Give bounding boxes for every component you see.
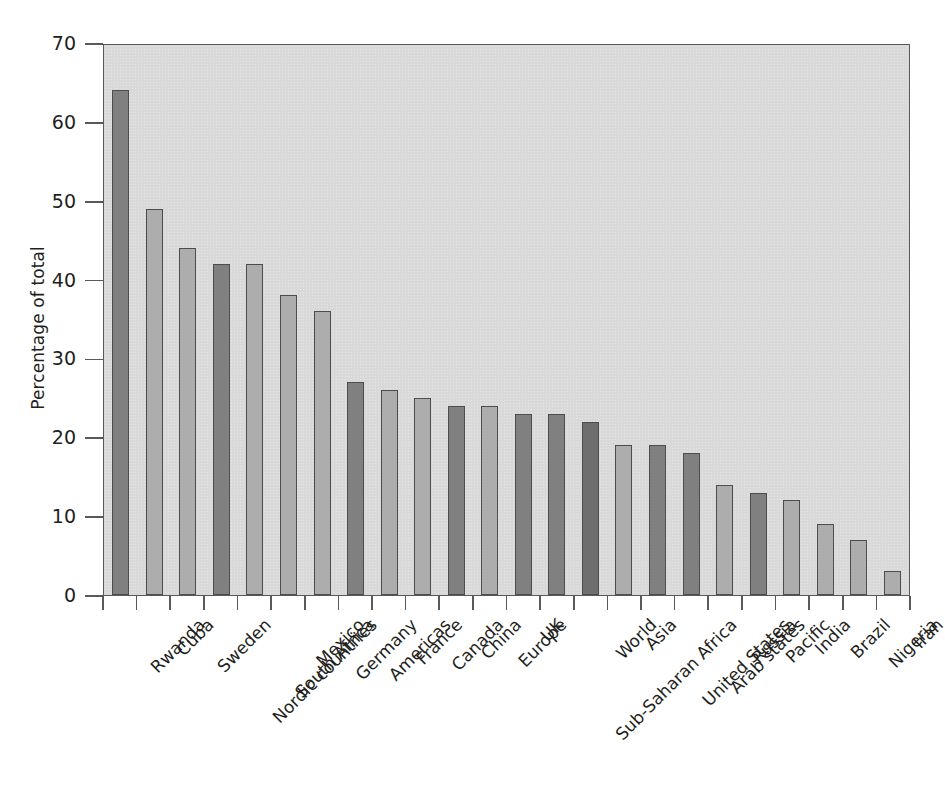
x-axis-tick [573, 596, 575, 610]
y-axis-tick [85, 359, 103, 361]
x-axis-tick [338, 596, 340, 610]
bar[interactable] [146, 209, 163, 595]
bar-chart-figure: Percentage of total 010203040506070 Rwan… [0, 0, 945, 789]
x-axis-tick [169, 596, 171, 610]
bar[interactable] [582, 422, 599, 595]
x-axis-tick [842, 596, 844, 610]
bar[interactable] [246, 264, 263, 595]
y-axis-tick [85, 516, 103, 518]
bar[interactable] [515, 414, 532, 595]
bar[interactable] [414, 398, 431, 595]
y-axis-tick [85, 280, 103, 282]
bar-slot [540, 45, 574, 595]
bar[interactable] [649, 445, 666, 595]
x-axis-tick [607, 596, 609, 610]
y-axis-tick [85, 43, 103, 45]
bar-slot [439, 45, 473, 595]
bar[interactable] [314, 311, 331, 595]
bar[interactable] [548, 414, 565, 595]
bar-slot [339, 45, 373, 595]
bar-slot [138, 45, 172, 595]
x-axis-tick [741, 596, 743, 610]
x-axis-tick [438, 596, 440, 610]
bar-slot [574, 45, 608, 595]
bar-slot [876, 45, 910, 595]
bar-slot [104, 45, 138, 595]
x-axis-tick [136, 596, 138, 610]
bar-slot [641, 45, 675, 595]
bar[interactable] [683, 453, 700, 595]
bar-slot [775, 45, 809, 595]
x-axis-tick-label: Cuba [174, 616, 217, 659]
bar-slot [674, 45, 708, 595]
bar[interactable] [716, 485, 733, 595]
bar-slot [708, 45, 742, 595]
x-axis-tick [506, 596, 508, 610]
bar[interactable] [615, 445, 632, 595]
bar[interactable] [850, 540, 867, 595]
y-axis-tick [85, 595, 103, 597]
bar[interactable] [280, 295, 297, 595]
x-axis-tick [102, 596, 104, 610]
bar-slot [372, 45, 406, 595]
plot-area [103, 44, 910, 596]
bar-slot [272, 45, 306, 595]
bar[interactable] [750, 493, 767, 596]
x-axis-tick [640, 596, 642, 610]
x-axis-tick [203, 596, 205, 610]
bar-slot [473, 45, 507, 595]
bar-series [104, 45, 909, 595]
bar[interactable] [783, 500, 800, 595]
x-axis-tick [405, 596, 407, 610]
x-axis-tick [270, 596, 272, 610]
bar-slot [842, 45, 876, 595]
bar[interactable] [817, 524, 834, 595]
x-axis-tick [909, 596, 911, 610]
x-axis-tick-label: Sweden [215, 616, 275, 676]
bar-slot [238, 45, 272, 595]
bar-slot [741, 45, 775, 595]
x-axis-tick [237, 596, 239, 610]
y-axis-tick [85, 437, 103, 439]
bar-slot [406, 45, 440, 595]
bar[interactable] [347, 382, 364, 595]
x-axis-tick [674, 596, 676, 610]
bar[interactable] [448, 406, 465, 595]
bar-slot [205, 45, 239, 595]
x-axis-tick [808, 596, 810, 610]
bar[interactable] [381, 390, 398, 595]
y-axis-tick [85, 201, 103, 203]
bar-slot [305, 45, 339, 595]
bar-slot [607, 45, 641, 595]
bar[interactable] [179, 248, 196, 595]
x-axis-tick [371, 596, 373, 610]
x-axis-tick [707, 596, 709, 610]
bar[interactable] [481, 406, 498, 595]
x-axis-tick [472, 596, 474, 610]
x-axis-tick [876, 596, 878, 610]
bar-slot [507, 45, 541, 595]
bar[interactable] [213, 264, 230, 595]
x-axis-tick [304, 596, 306, 610]
x-axis-tick [539, 596, 541, 610]
bar[interactable] [112, 90, 129, 595]
bar[interactable] [884, 571, 901, 595]
y-axis-tick [85, 122, 103, 124]
bar-slot [171, 45, 205, 595]
bar-slot [808, 45, 842, 595]
x-axis-tick [775, 596, 777, 610]
